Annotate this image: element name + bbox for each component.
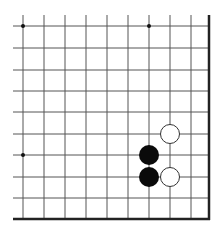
go-board [0,0,220,235]
star-point [21,24,25,28]
board-edges [13,15,210,220]
grid-lines [13,15,209,219]
star-point [147,24,151,28]
black-stone [139,145,159,165]
white-stone [161,125,180,144]
white-stone [161,168,180,187]
star-point [21,153,25,157]
black-stone [139,167,159,187]
